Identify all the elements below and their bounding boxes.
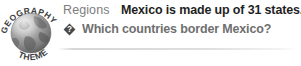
geography-theme-badge: GEOGRAPHY THEME <box>0 0 62 66</box>
svg-text:?: ? <box>67 25 72 34</box>
kicker-label: Regions <box>63 2 110 18</box>
question-row: ? Which countries border Mexico? <box>63 21 279 37</box>
headline-text: Mexico is made up of 31 states. <box>121 2 301 18</box>
question-diamond-icon: ? <box>63 23 76 36</box>
question-text: Which countries border Mexico? <box>82 21 271 37</box>
globe-badge-svg: GEOGRAPHY THEME <box>0 0 62 66</box>
section-divider <box>58 48 298 50</box>
callout-content: Regions Mexico is made up of 31 states. … <box>63 0 301 66</box>
headline-row: Regions Mexico is made up of 31 states. <box>63 2 301 18</box>
geography-theme-callout: GEOGRAPHY THEME Regions Mexico is made u… <box>0 0 301 66</box>
